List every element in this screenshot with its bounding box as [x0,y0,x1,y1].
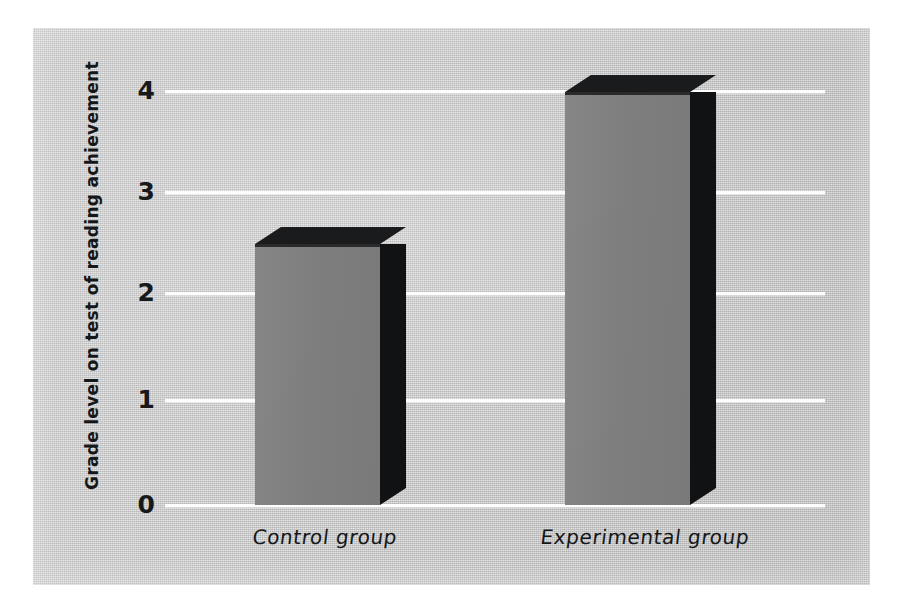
bar-experimental-group-front-face [565,92,690,505]
bar-control-group-side-face [380,244,406,505]
gridline-y-3 [165,191,825,194]
ytick-label-4: 4 [125,78,155,103]
bar-control-group-top-edge [255,244,380,247]
bar-control-group-front-face [255,244,380,505]
bar-experimental-group [565,92,690,505]
bar-experimental-group-side-face [690,92,716,505]
xtick-label-control-group: Control group [209,525,442,549]
chart-figure: 4 3 2 1 0 Grade level on test of reading… [0,0,902,610]
bar-control-group [255,244,380,505]
ytick-label-2: 2 [125,280,155,305]
gridline-y-4 [165,90,825,93]
bar-control-group-top-face [255,227,406,245]
ytick-label-3: 3 [125,179,155,204]
ytick-label-1: 1 [125,387,155,412]
bar-experimental-group-top-edge [565,92,690,95]
chart-plot-area: 4 3 2 1 0 Grade level on test of reading… [0,0,902,610]
xtick-label-experimental-group: Experimental group [509,525,782,549]
y-axis-label: Grade level on test of reading achieveme… [82,70,102,490]
ytick-label-0: 0 [125,492,155,517]
